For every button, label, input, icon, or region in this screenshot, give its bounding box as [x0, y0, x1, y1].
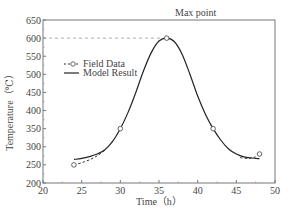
x-tick-label: 45 [231, 185, 241, 196]
field-data-point-marker-icon [118, 126, 123, 131]
y-tick-label: 300 [26, 141, 41, 152]
y-tick-label: 450 [26, 87, 41, 98]
x-tick-label: 30 [115, 185, 125, 196]
y-tick-label: 650 [26, 15, 41, 26]
y-tick-label: 400 [26, 105, 41, 116]
field-data-point-marker-icon [72, 163, 77, 168]
field-data-point-marker-icon [211, 126, 216, 131]
x-axis-title: Time（h） [136, 196, 182, 207]
legend-circle-marker-icon [71, 62, 75, 66]
field-data-series [72, 36, 262, 167]
y-tick-label: 550 [26, 51, 41, 62]
y-tick-label: 500 [26, 69, 41, 80]
field-data-point-marker-icon [164, 36, 169, 41]
field-data-point-marker-icon [257, 152, 262, 157]
x-tick-label: 20 [38, 185, 48, 196]
y-axis-title: Temperature（℃） [4, 69, 15, 151]
temperature-chart: 200250300350400450500550600650 202530354… [0, 0, 294, 212]
x-tick-label: 25 [77, 185, 87, 196]
x-tick-label: 40 [193, 185, 203, 196]
x-tick-label: 50 [270, 185, 280, 196]
legend: Field Data Model Result [64, 58, 137, 78]
y-tick-label: 350 [26, 123, 41, 134]
y-tick-label: 600 [26, 33, 41, 44]
x-axis-ticks: 20253035404550 [38, 180, 280, 196]
model-result-series [74, 38, 260, 159]
max-point-label: Max point [175, 7, 217, 18]
y-tick-label: 250 [26, 159, 41, 170]
model-result-line [74, 38, 260, 159]
x-tick-label: 35 [154, 185, 164, 196]
legend-model-result-label: Model Result [83, 67, 137, 78]
